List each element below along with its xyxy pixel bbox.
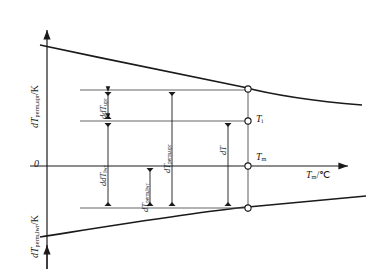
- y-axis-upper-T: T: [29, 117, 40, 123]
- annotation-ddT-upr: ddTupr: [99, 99, 108, 119]
- t-m-sub: m: [262, 155, 267, 162]
- dT-perm-lwr-sub: perm,lwr: [144, 184, 150, 203]
- origin-label: 0: [34, 159, 39, 169]
- y-axis-upper-d: d: [29, 123, 40, 128]
- x-axis-unit: /℃: [316, 169, 330, 180]
- y-axis-upper-label: dTperm,upr/K: [30, 85, 40, 128]
- ddT-lwr-prefix: dd: [98, 177, 108, 186]
- curve-lower-permissible: [40, 196, 366, 237]
- y-axis-lower-unit: /K: [29, 215, 40, 225]
- marker-t-i-point: [245, 118, 251, 124]
- dT-perm-upr-sub: perm,upr: [166, 145, 172, 164]
- ddT-lwr-sub: lwr: [102, 166, 108, 173]
- ddT-upr-prefix: dd: [98, 110, 108, 119]
- ddT-upr-sub: upr: [102, 99, 108, 106]
- y-axis-upper-sub: perm,upr: [33, 95, 40, 118]
- dT-perm-upr-prefix: d: [162, 169, 172, 173]
- curve-upper-permissible: [40, 45, 362, 105]
- annotation-dT: dT: [219, 146, 228, 155]
- marker-upper-curve-point: [245, 86, 251, 92]
- arrow-ddT-lwr: [105, 123, 112, 206]
- dT-T: T: [218, 146, 228, 151]
- ddT-lwr-T: T: [98, 173, 108, 178]
- x-axis-label: Tm/℃: [306, 170, 330, 180]
- annotation-ddT-lwr: ddTlwr: [99, 166, 108, 186]
- marker-lower-curve-point: [245, 205, 251, 211]
- annotation-dT-perm-upr: dTperm,upr: [163, 145, 172, 173]
- y-axis-lower-label: dTperm,lwr/K: [30, 215, 40, 258]
- dT-prefix: d: [218, 151, 228, 155]
- marker-t-m-point: [245, 163, 251, 169]
- diagram-canvas: dTperm,upr/K dTperm,lwr/K Tm/℃ 0 Ti Tm d…: [0, 0, 375, 269]
- ddT-upr-T: T: [98, 106, 108, 111]
- dT-perm-lwr-T: T: [140, 203, 150, 208]
- marker-label-t-m: Tm: [256, 152, 266, 162]
- arrow-dT: [225, 123, 232, 206]
- annotation-dT-perm-lwr: dTperm,lwr: [141, 184, 150, 212]
- y-axis-lower-T: T: [29, 247, 40, 253]
- dT-perm-upr-T: T: [162, 164, 172, 169]
- y-axis-upper-unit: /K: [29, 85, 40, 95]
- dT-perm-lwr-prefix: d: [140, 208, 150, 212]
- y-axis-lower-d: d: [29, 253, 40, 258]
- t-i-sub: i: [262, 117, 264, 124]
- y-axis-lower-sub: perm,lwr: [33, 225, 40, 248]
- diagram-svg: [0, 0, 375, 269]
- marker-label-t-i: Ti: [256, 114, 263, 124]
